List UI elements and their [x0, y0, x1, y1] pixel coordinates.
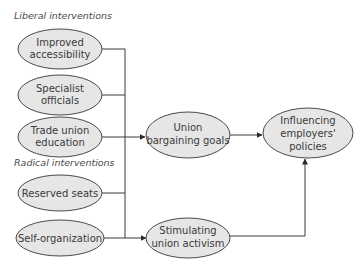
node-influencing-employers-policies: Influencing employers' policies: [263, 108, 353, 158]
svg-text:Trade union: Trade union: [30, 125, 89, 136]
svg-text:Improved: Improved: [36, 37, 83, 48]
svg-text:Union: Union: [174, 122, 203, 133]
edge-activism-to-influencing: [230, 159, 305, 236]
node-union-bargaining-goals: Union bargaining goals: [146, 112, 230, 158]
svg-text:Specialist: Specialist: [36, 83, 84, 94]
svg-text:education: education: [35, 137, 85, 148]
svg-text:employers': employers': [280, 128, 335, 139]
svg-text:bargaining goals: bargaining goals: [146, 135, 229, 146]
node-self-organization: Self-organization: [16, 220, 104, 256]
radical-interventions-label: Radical interventions: [14, 157, 115, 168]
node-stimulating-union-activism: Stimulating union activism: [146, 218, 230, 258]
svg-text:accessibility: accessibility: [30, 49, 91, 60]
svg-text:Reserved seats: Reserved seats: [22, 188, 98, 199]
node-improved-accessibility: Improved accessibility: [18, 29, 102, 69]
svg-text:Stimulating: Stimulating: [159, 225, 216, 236]
node-specialist-officials: Specialist officials: [18, 75, 102, 115]
svg-text:officials: officials: [41, 95, 79, 106]
node-trade-union-education: Trade union education: [18, 117, 102, 157]
node-reserved-seats: Reserved seats: [18, 175, 102, 211]
svg-text:policies: policies: [289, 141, 327, 152]
diagram-canvas: Liberal interventions Radical interventi…: [0, 0, 360, 270]
svg-text:union activism: union activism: [151, 238, 224, 249]
liberal-interventions-label: Liberal interventions: [14, 10, 112, 21]
svg-text:Influencing: Influencing: [280, 115, 335, 126]
svg-text:Self-organization: Self-organization: [18, 233, 102, 244]
